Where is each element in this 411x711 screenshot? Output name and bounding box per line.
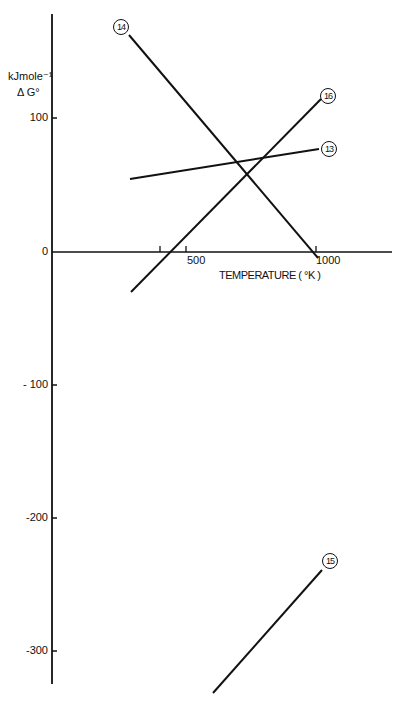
y-tick-minus-200: -200 (4, 511, 48, 523)
y-tick-minus-100: - 100 (4, 378, 48, 390)
y-axis-quantity: Δ G° (17, 86, 40, 98)
curve-15 (213, 570, 322, 693)
curve-14 (129, 35, 318, 258)
curve-13 (130, 149, 319, 179)
y-tick-100: 100 (4, 111, 48, 123)
x-ticks (160, 246, 316, 252)
x-tick-500: 500 (187, 254, 205, 266)
curve-label-16: 16 (320, 88, 336, 104)
curve-label-13: 13 (321, 141, 337, 157)
y-axis-unit: kJmole⁻¹ (8, 70, 53, 83)
y-tick-0: 0 (4, 245, 48, 257)
chart-canvas (0, 0, 411, 711)
curve-16 (131, 99, 321, 292)
curve-label-14: 14 (113, 19, 129, 35)
y-tick-minus-300: -300 (4, 644, 48, 656)
x-tick-1000: 1000 (316, 254, 340, 266)
x-axis-label: TEMPERATURE ( °K ) (219, 269, 321, 281)
curve-label-15: 15 (322, 553, 338, 569)
